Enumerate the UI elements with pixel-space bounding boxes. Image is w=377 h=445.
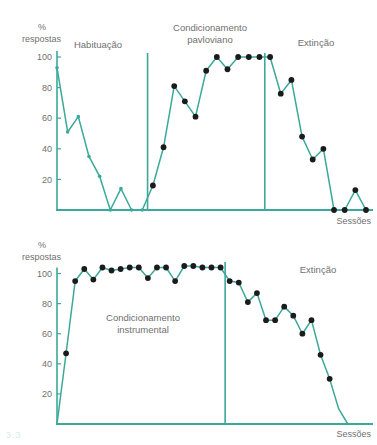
data-point-marker xyxy=(272,317,278,323)
data-point-marker xyxy=(81,266,87,272)
data-point-marker xyxy=(254,290,260,296)
bottom-y-axis-name: respostas xyxy=(22,252,62,262)
data-point-marker xyxy=(200,265,206,271)
data-point-marker xyxy=(193,114,199,120)
data-point-marker xyxy=(209,265,215,271)
top-phase-label-pavloviano-line1: Condicionamento xyxy=(173,22,247,33)
data-point-marker xyxy=(119,187,123,191)
data-point-marker xyxy=(218,265,224,271)
data-point-marker xyxy=(136,265,142,271)
top-plot-area: 20406080100 xyxy=(37,51,373,213)
data-point-marker xyxy=(263,317,269,323)
top-phase-label-habituacao: Habituação xyxy=(74,39,122,50)
data-point-marker xyxy=(310,157,316,163)
data-point-marker xyxy=(100,265,106,271)
data-point-marker xyxy=(299,331,305,337)
data-point-marker xyxy=(90,277,96,283)
data-point-marker xyxy=(363,207,369,213)
data-point-marker xyxy=(161,144,167,150)
y-tick-label: 20 xyxy=(42,175,52,185)
figure-caption-mark: 3.3 xyxy=(6,430,22,440)
data-point-marker xyxy=(98,175,102,179)
top-phase-label-extincao: Extinção xyxy=(298,37,334,48)
data-point-marker xyxy=(182,98,188,104)
data-point-marker xyxy=(87,155,91,159)
data-point-marker xyxy=(227,278,233,284)
data-point-marker xyxy=(352,187,358,193)
data-point-marker xyxy=(246,54,252,60)
y-tick-label: 40 xyxy=(42,359,52,369)
data-point-marker xyxy=(245,299,251,305)
y-tick-label: 80 xyxy=(42,83,52,93)
data-point-marker xyxy=(342,207,348,213)
data-point-marker xyxy=(278,91,284,97)
data-point-marker xyxy=(214,54,220,60)
top-x-axis-title: Sessões xyxy=(336,216,371,226)
top-phase-label-pavloviano-line2: pavloviano xyxy=(187,34,232,45)
data-point-marker xyxy=(77,115,81,119)
y-tick-label: 100 xyxy=(37,269,52,279)
data-line xyxy=(57,57,366,210)
chart-panel-bottom: % respostas Condicionamento instrumental… xyxy=(0,228,377,445)
data-point-marker xyxy=(267,54,273,60)
top-y-axis-unit: % xyxy=(38,22,46,32)
data-point-marker xyxy=(127,265,133,271)
bottom-x-axis-title: Sessões xyxy=(336,429,371,439)
data-point-marker xyxy=(235,54,241,60)
data-point-marker xyxy=(63,350,69,356)
data-point-marker xyxy=(108,208,112,212)
data-point-marker xyxy=(55,66,59,70)
bottom-y-axis-unit: % xyxy=(38,240,46,250)
top-chart-svg: % respostas Habituação Condicionamento p… xyxy=(0,0,377,228)
data-point-marker xyxy=(281,304,287,310)
data-point-marker xyxy=(66,130,70,134)
data-point-marker xyxy=(72,278,78,284)
bottom-phase-label-extincao: Extinção xyxy=(300,264,336,275)
y-tick-label: 80 xyxy=(42,299,52,309)
data-point-marker xyxy=(331,207,337,213)
data-point-marker xyxy=(257,54,263,60)
chart-panel-top: % respostas Habituação Condicionamento p… xyxy=(0,0,377,228)
bottom-phase-label-instrumental-line1: Condicionamento xyxy=(106,312,180,323)
data-line xyxy=(57,266,366,424)
data-point-marker xyxy=(150,183,156,189)
data-point-marker xyxy=(130,208,134,212)
y-tick-label: 60 xyxy=(42,329,52,339)
bottom-chart-svg: % respostas Condicionamento instrumental… xyxy=(0,228,377,445)
data-point-marker xyxy=(154,265,160,271)
data-point-marker xyxy=(172,278,178,284)
data-point-marker xyxy=(163,265,169,271)
figure-root: % respostas Habituação Condicionamento p… xyxy=(0,0,377,445)
data-point-marker xyxy=(318,352,324,358)
data-point-marker xyxy=(225,66,231,72)
data-point-marker xyxy=(181,263,187,269)
data-point-marker xyxy=(290,313,296,319)
top-y-axis-name: respostas xyxy=(22,34,62,44)
data-point-marker xyxy=(309,317,315,323)
data-point-marker xyxy=(289,77,295,83)
bottom-plot-area: 20406080100 xyxy=(37,262,373,424)
y-tick-label: 100 xyxy=(37,52,52,62)
y-tick-label: 40 xyxy=(42,144,52,154)
data-point-marker xyxy=(190,263,196,269)
data-point-marker xyxy=(118,266,124,272)
data-point-marker xyxy=(145,275,151,281)
data-point-marker xyxy=(236,280,242,286)
y-tick-label: 60 xyxy=(42,113,52,123)
data-point-marker xyxy=(327,376,333,382)
data-point-marker xyxy=(140,208,144,212)
data-point-marker xyxy=(320,146,326,152)
data-point-marker xyxy=(109,268,115,274)
data-point-marker xyxy=(299,134,305,140)
bottom-phase-label-instrumental-line2: instrumental xyxy=(117,324,169,335)
data-point-marker xyxy=(203,68,209,74)
y-tick-label: 20 xyxy=(42,389,52,399)
data-point-marker xyxy=(171,83,177,89)
